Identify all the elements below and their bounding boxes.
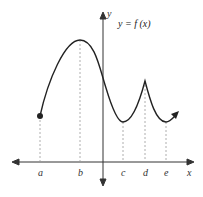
function-label: y = f (x) <box>117 18 151 30</box>
y-axis-label: y <box>106 8 112 19</box>
y-axis <box>100 12 106 186</box>
tick-e: e <box>164 167 169 178</box>
tick-c: c <box>121 167 126 178</box>
function-graph: y = f (x) y x a b c d e <box>0 0 203 197</box>
tick-b: b <box>78 167 83 178</box>
endpoint-dot <box>37 113 43 119</box>
tick-d: d <box>143 167 149 178</box>
x-axis-label: x <box>186 167 192 178</box>
tick-a: a <box>38 167 43 178</box>
curve <box>40 40 176 122</box>
curve-arrow-icon <box>171 111 179 119</box>
